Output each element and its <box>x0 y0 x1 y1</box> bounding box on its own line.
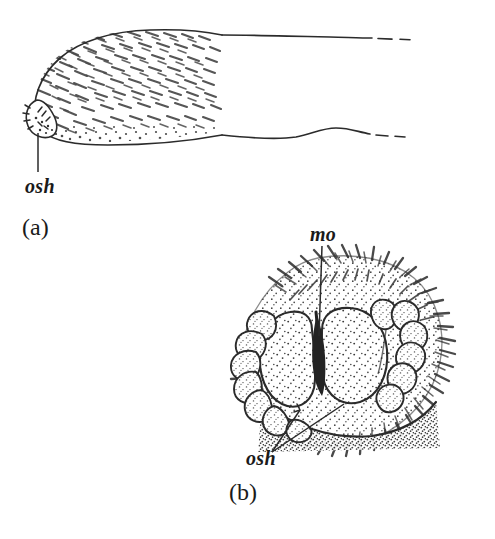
median-groove-upper <box>316 312 317 322</box>
shaft-lower-dash-1 <box>376 135 388 136</box>
right-lobe-6 <box>376 385 403 413</box>
figure-container: osh (a) mo osh (b) <box>0 0 495 539</box>
shaft-upper-dash-2 <box>400 39 410 40</box>
shaft-lower-line <box>222 128 370 138</box>
panel-a-drawing <box>23 30 410 172</box>
label-osh-panel-b: osh <box>246 448 276 468</box>
panel-b-drawing <box>231 245 455 456</box>
panel-label-a: (a) <box>22 215 49 239</box>
shaft-lower-dash-2 <box>395 136 405 137</box>
shaft-upper-line <box>222 35 372 38</box>
label-mo-panel-b: mo <box>310 224 336 244</box>
shaft-upper-dash-1 <box>378 39 392 40</box>
label-osh-panel-a: osh <box>25 176 55 196</box>
panel-label-b: (b) <box>229 480 257 504</box>
